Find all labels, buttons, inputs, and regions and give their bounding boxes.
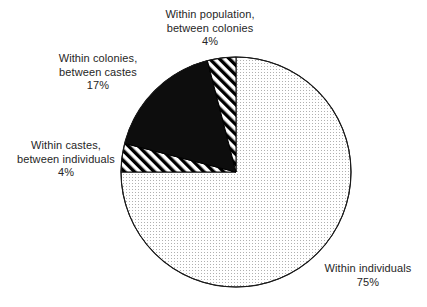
pie-label-castes-individuals-value: 4% (2, 166, 130, 180)
pie-chart: Within population, between colonies 4% W… (0, 0, 427, 307)
pie-label-population-colonies-line2: between colonies (167, 22, 254, 34)
pie-label-population-colonies-line1: Within population, (165, 8, 254, 20)
pie-label-population-colonies: Within population, between colonies 4% (140, 8, 280, 49)
pie-label-colonies-castes-value: 17% (28, 79, 168, 93)
pie-label-colonies-castes: Within colonies, between castes 17% (28, 52, 168, 93)
pie-label-within-individuals-line1: Within individuals (325, 262, 412, 274)
pie-label-within-individuals-value: 75% (312, 276, 424, 290)
pie-label-colonies-castes-line1: Within colonies, (59, 52, 138, 64)
pie-label-castes-individuals-line2: between individuals (17, 153, 115, 165)
pie-label-castes-individuals-line1: Within castes, (31, 139, 101, 151)
pie-label-colonies-castes-line2: between castes (59, 66, 137, 78)
pie-label-population-colonies-value: 4% (140, 35, 280, 49)
pie-label-castes-individuals: Within castes, between individuals 4% (2, 139, 130, 180)
pie-label-within-individuals: Within individuals 75% (312, 262, 424, 289)
